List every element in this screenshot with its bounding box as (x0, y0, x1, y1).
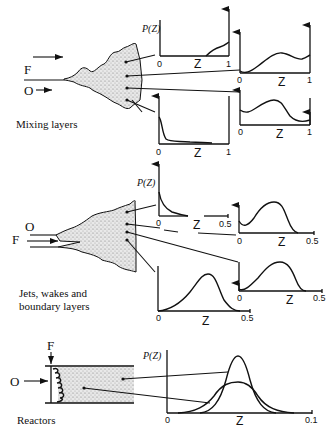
ylabel-jet-top: P(Z) (136, 177, 156, 189)
svg-text:0: 0 (237, 75, 242, 85)
leader-jet-mid-3 (198, 233, 236, 235)
svg-text:1: 1 (307, 127, 312, 137)
fuel-label: F (12, 232, 19, 247)
caption-mixing-layers: Mixing layers (16, 118, 77, 130)
plot-ml-mid-upper: 0 Z 1 (237, 25, 312, 89)
pdf-diagram: F O P(Z) 0 Z 1 0 Z (0, 0, 330, 433)
caption-jets-line2: boundary layers (19, 300, 90, 312)
leader-jet-lower-right (127, 232, 238, 262)
plot-ml-top: P(Z) 0 Z 1 (141, 9, 231, 71)
jets-section: O F P(Z) 0 Z 0.5 (12, 164, 326, 328)
reactor-mixing-zone (58, 367, 134, 403)
leader-ml-mid-lower (127, 88, 240, 92)
leader-ml-mid-upper (127, 70, 240, 76)
svg-text:0.5: 0.5 (313, 293, 326, 303)
reactors-section: F O P(Z) 0 Z 0.1 Reactors (10, 338, 318, 428)
plot-jet-mid: 0 Z 0.5 (237, 202, 319, 249)
jet-region (56, 201, 136, 272)
svg-text:0: 0 (238, 127, 243, 137)
plot-reactor: P(Z) 0 Z 0.1 (142, 350, 318, 428)
svg-text:0: 0 (237, 236, 242, 246)
svg-text:1: 1 (226, 59, 231, 69)
ylabel-ml-top: P(Z) (141, 23, 161, 35)
leader-jet-mid-2 (164, 230, 178, 232)
svg-text:Z: Z (193, 218, 200, 232)
svg-text:1: 1 (226, 147, 231, 157)
oxidizer-label: O (10, 374, 19, 389)
fuel-label: F (47, 338, 54, 353)
svg-text:0: 0 (237, 293, 242, 303)
fuel-label: F (24, 62, 31, 77)
ylabel-reactor: P(Z) (142, 350, 162, 362)
plot-ml-mid-lower: 0 Z 1 (238, 90, 312, 141)
caption-jets-line1: Jets, wakes and (19, 287, 88, 299)
svg-text:Z: Z (278, 75, 285, 89)
oxidizer-label: O (24, 83, 33, 98)
svg-text:0.1: 0.1 (305, 415, 318, 425)
plot-jet-lower-right: 0 Z 0.5 (237, 262, 326, 307)
svg-text:Z: Z (236, 414, 243, 428)
svg-text:0: 0 (156, 218, 161, 228)
svg-text:Z: Z (276, 127, 283, 141)
narrow-pdf-curve (200, 356, 276, 413)
broad-pdf-curve (178, 382, 294, 413)
svg-text:0.5: 0.5 (219, 219, 232, 229)
plot-jet-top: P(Z) 0 Z 0.5 (136, 164, 232, 232)
svg-text:Z: Z (202, 314, 209, 328)
svg-text:0: 0 (157, 59, 162, 69)
svg-text:0: 0 (165, 415, 170, 425)
svg-text:Z: Z (286, 293, 293, 307)
mixing-layers-section: F O P(Z) 0 Z 1 0 Z (16, 9, 312, 160)
oxidizer-label: O (25, 219, 34, 234)
svg-text:0: 0 (156, 313, 161, 323)
svg-text:Z: Z (194, 146, 201, 160)
svg-text:0.5: 0.5 (306, 236, 319, 246)
svg-text:0.5: 0.5 (241, 313, 254, 323)
svg-text:Z: Z (278, 235, 285, 249)
svg-text:1: 1 (307, 75, 312, 85)
plot-ml-bottom: 0 Z 1 (156, 96, 231, 160)
svg-text:Z: Z (194, 57, 201, 71)
caption-reactors: Reactors (17, 414, 55, 426)
leader-reactor-outer (123, 372, 228, 379)
svg-text:0: 0 (156, 147, 161, 157)
